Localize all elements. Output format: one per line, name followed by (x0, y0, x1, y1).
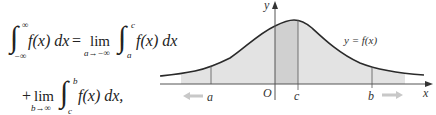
shaded-area-dark (275, 20, 298, 84)
label-a: a (207, 90, 213, 104)
y-axis-arrow-icon (272, 1, 278, 9)
label-c: c (294, 89, 300, 103)
y-axis-label: y (263, 0, 270, 12)
right-arrow-icon (382, 91, 403, 99)
function-graph: a O c b x y y = f(x) (0, 0, 436, 115)
origin-label: O (263, 86, 272, 100)
curve-label: y = f(x) (343, 34, 377, 47)
left-arrow-icon (183, 92, 203, 100)
x-axis-label: x (422, 86, 429, 100)
label-b: b (368, 89, 374, 103)
